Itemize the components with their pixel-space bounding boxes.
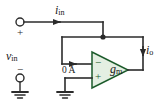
label-zero-amps: 0 A: [62, 66, 75, 76]
label-g-m: gm: [110, 63, 122, 77]
label-i-in: iin: [55, 4, 65, 18]
input-terminal-negative: [16, 74, 24, 82]
label-i-o-subscript: o: [149, 48, 153, 57]
input-polarity-minus: −: [17, 64, 23, 75]
input-wire-top: [24, 22, 103, 37]
circuit-diagram: iin vin io 0 A gm + − − +: [0, 0, 163, 111]
label-i-o: io: [146, 44, 153, 58]
label-i-in-subscript: in: [58, 8, 64, 17]
input-terminal-positive: [16, 18, 24, 26]
amplifier-inverting-input-sign: −: [95, 57, 101, 68]
label-v-in: vin: [6, 50, 18, 64]
input-polarity-plus: +: [17, 27, 23, 38]
label-g-m-subscript: m: [116, 67, 122, 76]
ground-symbol-input: [12, 82, 28, 98]
amplifier-noninverting-input-sign: +: [95, 71, 101, 82]
ground-symbol-amplifier: [57, 92, 73, 98]
circuit-schematic-canvas: [0, 0, 163, 111]
amplifier-noninverting-ground-wire: [65, 78, 92, 92]
